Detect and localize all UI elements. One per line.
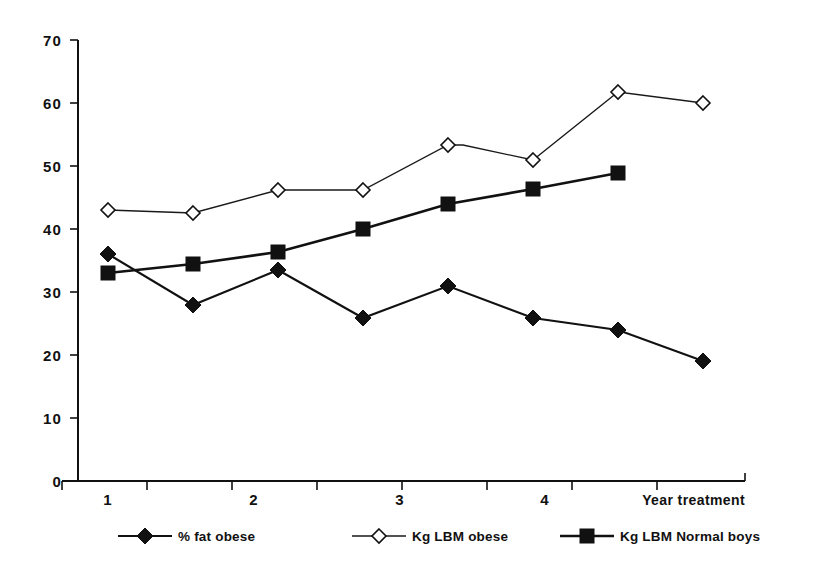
data-point-marker <box>611 85 625 99</box>
data-point-marker <box>611 166 625 180</box>
data-point-marker <box>695 353 711 369</box>
data-point-marker <box>101 266 115 280</box>
data-point-marker <box>441 138 455 152</box>
data-point-marker <box>526 153 540 167</box>
y-tick-label-60: 60 <box>43 95 62 112</box>
x-axis-title: Year treatment <box>642 492 745 508</box>
y-tick-label-50: 50 <box>43 158 62 175</box>
data-point-marker <box>101 203 115 217</box>
data-point-marker <box>271 183 285 197</box>
y-tick-label-30: 30 <box>43 284 62 301</box>
x-tick-label-2: 2 <box>249 491 259 508</box>
data-point-marker <box>441 197 455 211</box>
legend-label-percent-fat-obese: % fat obese <box>178 529 256 544</box>
y-tick-label-0: 0 <box>52 473 62 490</box>
legend-marker-open-diamond-icon <box>372 529 386 543</box>
data-point-marker <box>525 310 541 326</box>
legend-label-kg-lbm-obese: Kg LBM obese <box>412 529 508 544</box>
data-point-marker <box>356 183 370 197</box>
x-tick-label-4: 4 <box>540 491 550 508</box>
data-point-marker <box>100 246 116 262</box>
legend-marker-filled-diamond-icon <box>137 528 153 544</box>
data-point-marker <box>526 182 540 196</box>
y-axis <box>70 40 78 481</box>
y-tick-label-20: 20 <box>43 347 62 364</box>
x-tick-label-3: 3 <box>395 491 405 508</box>
series-kg-lbm-obese-markers <box>101 85 710 220</box>
y-tick-label-10: 10 <box>43 410 62 427</box>
data-point-marker <box>356 222 370 236</box>
legend-item-kg-lbm-obese[interactable]: Kg LBM obese <box>352 529 508 544</box>
x-tick-label-1: 1 <box>103 491 113 508</box>
y-axis-tick-labels: 70 60 50 40 30 20 10 0 <box>43 32 62 490</box>
x-axis-tick-labels: 1 2 3 4 <box>103 491 550 508</box>
legend-item-kg-lbm-normal-boys[interactable]: Kg LBM Normal boys <box>560 529 760 544</box>
data-point-marker <box>270 262 286 278</box>
data-point-marker <box>185 297 201 313</box>
legend-marker-filled-square-icon <box>580 529 594 543</box>
y-tick-label-70: 70 <box>43 32 62 49</box>
legend-label-kg-lbm-normal-boys: Kg LBM Normal boys <box>620 529 760 544</box>
chart-container: 70 60 50 40 30 20 10 0 <box>0 0 817 565</box>
data-point-marker <box>696 96 710 110</box>
line-chart-figure: 70 60 50 40 30 20 10 0 <box>0 0 817 565</box>
data-point-marker <box>186 206 200 220</box>
chart-legend: % fat obese Kg LBM obese Kg LBM Normal b… <box>118 528 760 544</box>
data-point-marker <box>271 245 285 259</box>
data-point-marker <box>610 322 626 338</box>
data-point-marker <box>355 310 371 326</box>
data-point-marker <box>186 257 200 271</box>
x-axis <box>62 473 745 490</box>
legend-item-percent-fat-obese[interactable]: % fat obese <box>118 528 256 544</box>
y-tick-label-40: 40 <box>43 221 62 238</box>
series-kg-lbm-obese <box>101 85 710 220</box>
data-point-marker <box>440 278 456 294</box>
